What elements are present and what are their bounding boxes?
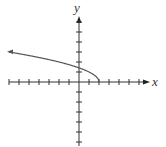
x-axis-label: x [151,74,158,89]
curve-arrow-icon [7,50,13,55]
x-axis-arrow-icon [143,80,150,85]
function-curve [9,52,99,82]
y-axis-label: y [72,0,80,15]
graph: x y [0,0,166,147]
